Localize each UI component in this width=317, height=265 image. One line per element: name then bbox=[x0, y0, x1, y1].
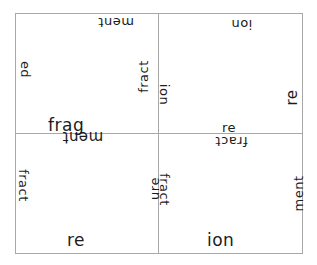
tile-bottom-left-top-fragment: ment bbox=[62, 129, 103, 144]
tile-bottom-right-top-fragment: fract bbox=[215, 135, 248, 148]
tile-top-left-left-fragment: ed bbox=[19, 61, 32, 78]
tile-bottom-left-left-fragment: fract bbox=[17, 169, 30, 202]
tile-top-left-top-fragment: ment bbox=[98, 16, 134, 29]
tile-top-right-right-fragment: re bbox=[285, 89, 300, 105]
tile-top-right-top-fragment: ion bbox=[231, 18, 252, 31]
tile-bottom-right-bottom-fragment: ion bbox=[207, 232, 234, 249]
puzzle-board: ment ed fract frag ion ion re re ment fr… bbox=[15, 13, 303, 254]
tile-bottom-right-right-fragment: ment bbox=[292, 176, 305, 212]
tile-bottom-left-bottom-fragment: re bbox=[67, 232, 85, 249]
tile-top-right-left-fragment: ion bbox=[158, 84, 171, 105]
tile-bottom-right-left-fragment: fract bbox=[158, 173, 171, 206]
tile-top-right-bottom-fragment: re bbox=[222, 121, 236, 134]
tile-top-left-right-fragment: fract bbox=[137, 60, 150, 93]
